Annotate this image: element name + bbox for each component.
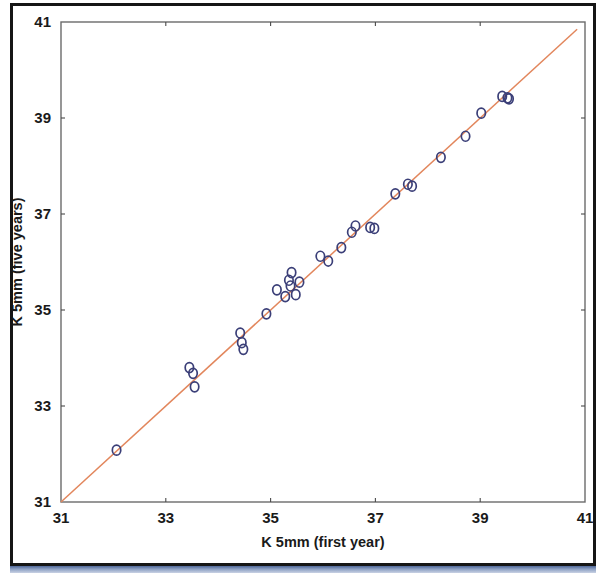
y-tick-label: 41 — [34, 13, 51, 30]
y-axis-title: K 5mm (five years) — [9, 197, 25, 326]
y-tick-label: 31 — [34, 493, 51, 510]
scatter-plot-figure: 313335373941 313335373941 K 5mm (first y… — [0, 0, 604, 580]
x-tick-label: 37 — [367, 509, 384, 526]
plot-svg: 313335373941 313335373941 K 5mm (first y… — [0, 0, 604, 580]
y-tick-label: 39 — [34, 109, 51, 126]
x-tick-label: 33 — [157, 509, 174, 526]
y-tick-label: 37 — [34, 205, 51, 222]
x-tick-label: 39 — [472, 509, 489, 526]
x-tick-label: 31 — [53, 509, 70, 526]
x-axis-tick-labels: 313335373941 — [53, 509, 594, 526]
y-tick-label: 35 — [34, 301, 51, 318]
x-axis-title: K 5mm (first year) — [261, 534, 384, 550]
y-tick-label: 33 — [34, 397, 51, 414]
x-tick-label: 35 — [262, 509, 279, 526]
x-tick-label: 41 — [577, 509, 594, 526]
y-axis-tick-labels: 313335373941 — [34, 13, 51, 510]
screenshot-root: 313335373941 313335373941 K 5mm (first y… — [0, 0, 604, 580]
